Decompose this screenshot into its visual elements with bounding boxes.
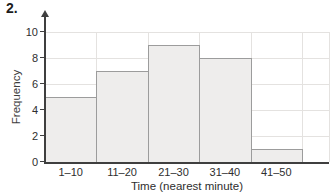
gridline-horizontal	[45, 32, 329, 33]
bar-21-30	[148, 45, 200, 163]
y-axis-arrow-icon	[41, 10, 49, 17]
bar-41-50	[251, 149, 303, 163]
bar-11-20	[96, 71, 149, 163]
plot-area: 02468101–1011–2021–3031–4041–50	[0, 0, 332, 196]
y-tick-label: 0	[10, 156, 38, 169]
y-axis-line	[44, 16, 46, 164]
y-tick-label: 8	[10, 52, 38, 65]
bar-31-40	[199, 58, 252, 163]
gridline-vertical	[329, 32, 330, 162]
bar-1-10	[45, 97, 97, 163]
gridline-vertical	[302, 32, 303, 162]
y-tick-label: 2	[10, 130, 38, 143]
figure-2-histogram: 2. Frequency 02468101–1011–2021–3031–404…	[0, 0, 332, 196]
x-tick-label: 41–50	[246, 166, 306, 179]
x-axis-title: Time (nearest minute)	[45, 180, 329, 192]
x-axis-line	[44, 162, 329, 164]
y-tick-label: 4	[10, 104, 38, 117]
y-tick-label: 10	[10, 26, 38, 39]
y-tick-label: 6	[10, 78, 38, 91]
